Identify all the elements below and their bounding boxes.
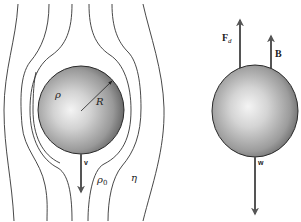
fluid-density-label: ρ0 [97, 175, 107, 187]
sphere-in-fluid [38, 66, 124, 154]
viscosity-label: η [131, 173, 137, 183]
sphere-density-label: ρ [55, 90, 61, 100]
streamline-left-1 [4, 4, 18, 221]
weight-label: w [258, 159, 263, 166]
buoyancy-label: B [275, 49, 282, 59]
drag-force-label: Fd [222, 33, 232, 45]
falling-sphere-diagram: ρ R v ρ0 η Fd B w [0, 0, 301, 222]
diagram-graphics [0, 0, 301, 222]
velocity-label: v [84, 159, 88, 166]
radius-label: R [96, 97, 104, 107]
streamline-right-3 [143, 4, 164, 221]
drag-force-subscript: d [228, 37, 232, 45]
sphere-free-body [212, 65, 298, 157]
fluid-density-subscript: 0 [103, 179, 107, 187]
